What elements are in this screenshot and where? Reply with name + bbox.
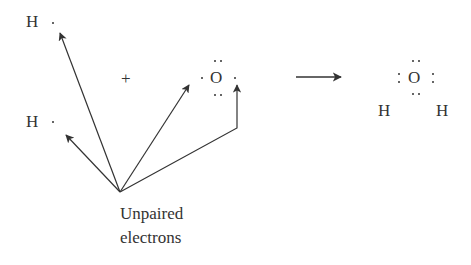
hydrogen-atom-1: H bbox=[26, 13, 38, 30]
electron-dot bbox=[220, 94, 222, 96]
annotation-line-1: Unpaired bbox=[120, 205, 183, 222]
electron-dot bbox=[398, 73, 400, 75]
arrows-layer bbox=[0, 0, 471, 265]
electron-dot bbox=[220, 60, 222, 62]
electron-dot bbox=[214, 94, 216, 96]
electron-dot bbox=[214, 60, 216, 62]
hydrogen-atom-2: H bbox=[26, 113, 38, 130]
electron-dot bbox=[412, 60, 414, 62]
lewis-diagram-water-formation: H H + O O H H Unpaired electrons bbox=[0, 0, 471, 265]
product-hydrogen-right: H bbox=[436, 102, 448, 119]
electron-dot bbox=[418, 93, 420, 95]
annotation-line-2: electrons bbox=[120, 229, 181, 246]
electron-dot bbox=[398, 81, 400, 83]
electron-dot bbox=[52, 22, 54, 24]
pointer-arrow-o-left bbox=[120, 85, 189, 192]
product-hydrogen-left: H bbox=[378, 102, 390, 119]
electron-dot bbox=[201, 77, 203, 79]
electron-dot bbox=[432, 73, 434, 75]
product-oxygen-atom: O bbox=[408, 69, 420, 86]
electron-dot bbox=[418, 60, 420, 62]
pointer-arrow-h2 bbox=[66, 135, 120, 192]
pointer-arrow-h1 bbox=[60, 33, 120, 192]
electron-dot bbox=[432, 81, 434, 83]
electron-dot bbox=[412, 93, 414, 95]
electron-dot bbox=[52, 121, 54, 123]
plus-sign: + bbox=[121, 70, 131, 87]
oxygen-atom: O bbox=[210, 69, 222, 86]
electron-dot bbox=[234, 77, 236, 79]
